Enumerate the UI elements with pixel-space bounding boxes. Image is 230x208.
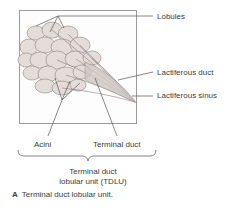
label-lactiferous-sinus: Lactiferous sinus: [157, 91, 217, 100]
label-lobules: Lobules: [157, 12, 185, 21]
label-acini: Acini: [34, 140, 51, 149]
label-tdlu-line1: Terminal duct: [40, 167, 146, 177]
label-terminal-duct: Terminal duct: [93, 140, 141, 149]
label-tdlu: Terminal duct lobular unit (TDLU): [40, 167, 146, 187]
lobules-illustration: [18, 22, 101, 95]
label-tdlu-line2: lobular unit (TDLU): [40, 177, 146, 187]
tdlu-bracket: [18, 150, 156, 161]
label-lactiferous-duct: Lactiferous duct: [157, 68, 213, 77]
figure-caption: ATerminal duct lobular unit.: [12, 190, 113, 199]
caption-text: Terminal duct lobular unit.: [22, 190, 113, 199]
tdlu-figure: Lobules Lactiferous duct Lactiferous sin…: [0, 0, 230, 208]
caption-letter: A: [12, 190, 18, 199]
duct-sheath: [85, 62, 137, 103]
